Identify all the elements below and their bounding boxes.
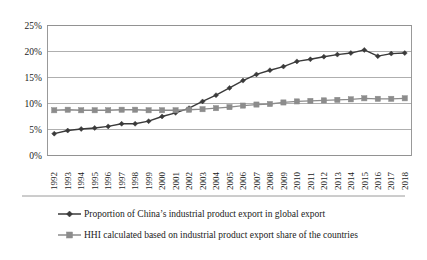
data-point-marker	[335, 52, 340, 57]
data-point-marker	[133, 107, 138, 112]
y-axis-tick-label: 25%	[25, 21, 43, 31]
x-axis-tick-labels: 1992199319941995199619971998199920002001…	[49, 172, 410, 191]
legend-label: Proportion of China’s industrial product…	[84, 209, 326, 219]
data-point-marker	[375, 96, 380, 101]
x-axis-tick-label: 2003	[198, 172, 208, 191]
data-point-marker	[254, 102, 259, 107]
data-point-marker	[133, 121, 138, 126]
data-point-marker	[65, 128, 70, 133]
data-point-marker	[267, 101, 272, 106]
data-point-marker	[294, 59, 299, 64]
x-axis-tick-label: 1997	[117, 172, 127, 191]
x-axis-tick-label: 2010	[292, 172, 302, 191]
x-axis-tick-label: 2011	[306, 172, 316, 190]
x-axis-tick-label: 2000	[157, 172, 167, 191]
data-point-marker	[52, 131, 57, 136]
data-point-marker	[200, 107, 205, 112]
data-point-marker	[294, 99, 299, 104]
x-axis-tick-label: 2016	[373, 172, 383, 191]
x-axis-tick-label: 2017	[386, 172, 396, 191]
data-point-marker	[119, 121, 124, 126]
data-point-marker	[106, 108, 111, 113]
x-axis-tick-label: 2018	[400, 172, 410, 191]
data-point-marker	[254, 72, 259, 77]
data-point-marker	[146, 108, 151, 113]
x-axis-tick-label: 2014	[346, 172, 356, 191]
data-point-marker	[106, 124, 111, 129]
data-point-marker	[213, 106, 218, 111]
data-point-marker	[321, 98, 326, 103]
data-point-marker	[335, 97, 340, 102]
data-point-marker	[92, 108, 97, 113]
data-point-marker	[186, 107, 191, 112]
x-axis-tick-label: 1995	[90, 172, 100, 191]
y-axis-tick-label: 0%	[29, 151, 42, 161]
data-point-marker	[214, 93, 219, 98]
data-point-marker	[79, 126, 84, 131]
data-point-marker	[240, 78, 245, 83]
chart-figure: 0%5%10%15%20%25% 19921993199419951996199…	[0, 0, 427, 260]
data-point-marker	[79, 108, 84, 113]
series-line	[54, 50, 405, 134]
data-series	[52, 96, 408, 113]
data-point-marker	[52, 108, 57, 113]
data-point-marker	[65, 107, 70, 112]
data-point-marker	[227, 85, 232, 90]
x-axis-tick-label: 1994	[76, 172, 86, 191]
data-point-marker	[146, 119, 151, 124]
x-axis-tick-label: 2004	[211, 172, 221, 191]
x-axis-tick-label: 1996	[103, 172, 113, 191]
x-axis-tick-label: 2012	[319, 172, 329, 190]
data-series	[52, 47, 408, 136]
x-axis-tick-label: 2008	[265, 172, 275, 191]
x-axis-tick-label: 2009	[279, 172, 289, 191]
y-axis-tick-labels: 0%5%10%15%20%25%	[25, 21, 43, 161]
x-axis-tick-label: 2002	[184, 172, 194, 190]
legend-item: Proportion of China’s industrial product…	[58, 209, 326, 219]
data-point-marker	[321, 54, 326, 59]
x-axis-tick-label: 2005	[225, 172, 235, 191]
legend-label: HHI calculated based on industrial produ…	[84, 230, 358, 240]
line-chart: 0%5%10%15%20%25% 19921993199419951996199…	[0, 0, 427, 260]
x-axis-tick-label: 1999	[144, 172, 154, 191]
x-axis-tick-label: 2006	[238, 172, 248, 191]
data-point-marker	[348, 97, 353, 102]
x-axis-tick-label: 2013	[333, 172, 343, 191]
data-point-marker	[308, 98, 313, 103]
data-point-marker	[362, 96, 367, 101]
data-point-marker	[240, 103, 245, 108]
x-axis-tick-label: 2001	[171, 172, 181, 190]
data-series-layer	[52, 47, 408, 136]
y-axis-tick-label: 20%	[25, 47, 43, 57]
x-axis-tick-label: 1992	[49, 172, 59, 190]
x-axis-tick-label: 2015	[360, 172, 370, 191]
data-point-marker	[159, 108, 164, 113]
legend-marker-icon	[67, 211, 73, 217]
x-axis-tick-label: 1998	[130, 172, 140, 191]
data-point-marker	[281, 64, 286, 69]
x-axis-tick-label: 1993	[63, 172, 73, 191]
data-point-marker	[281, 100, 286, 105]
data-point-marker	[227, 105, 232, 110]
data-point-marker	[119, 107, 124, 112]
y-axis-tick-label: 10%	[25, 99, 43, 109]
y-axis-tick-label: 15%	[25, 73, 43, 83]
chart-legend: Proportion of China’s industrial product…	[58, 209, 358, 240]
y-axis-tick-label: 5%	[29, 125, 42, 135]
legend-item: HHI calculated based on industrial produ…	[58, 230, 358, 240]
data-point-marker	[389, 96, 394, 101]
legend-marker-icon	[67, 232, 73, 238]
x-axis-tick-label: 2007	[252, 172, 262, 191]
data-point-marker	[402, 96, 407, 101]
data-point-marker	[160, 114, 165, 119]
data-point-marker	[308, 57, 313, 62]
data-point-marker	[375, 54, 380, 59]
data-point-marker	[173, 108, 178, 113]
data-point-marker	[267, 68, 272, 73]
